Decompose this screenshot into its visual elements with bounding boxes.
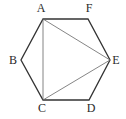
vertex-label-c: C xyxy=(38,101,46,115)
diagram-canvas: A F E D C B xyxy=(0,0,126,119)
vertex-label-f: F xyxy=(86,1,93,15)
vertex-label-e: E xyxy=(112,53,119,67)
diagonal-ae xyxy=(43,19,110,60)
vertex-label-d: D xyxy=(87,101,96,115)
hexagon-diagram: A F E D C B xyxy=(0,0,126,119)
vertex-label-b: B xyxy=(9,53,17,67)
vertex-label-a: A xyxy=(37,1,46,15)
triangle-ace-diagonals xyxy=(43,19,110,100)
hexagon-outline xyxy=(21,19,110,100)
